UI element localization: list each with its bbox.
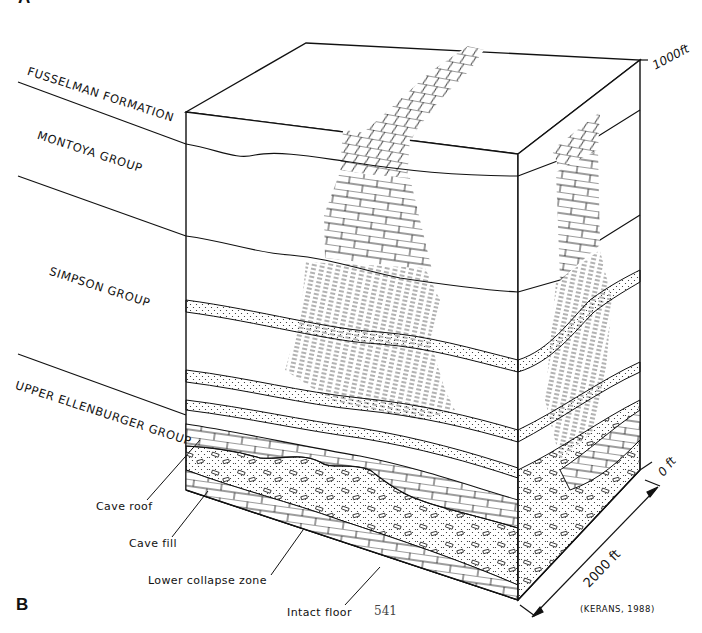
callout-cave-roof: Cave roof [96,500,152,513]
page-number: 541 [374,604,397,618]
callout-lower-collapse-zone: Lower collapse zone [148,574,267,587]
vertical-scale [640,60,652,470]
panel-label-b: B [16,595,28,615]
callout-intact-floor: Intact floor [287,606,352,619]
panel-label-a: A [18,0,30,8]
callout-cave-fill: Cave fill [129,537,177,550]
credit: (KERANS, 1988) [580,604,655,614]
